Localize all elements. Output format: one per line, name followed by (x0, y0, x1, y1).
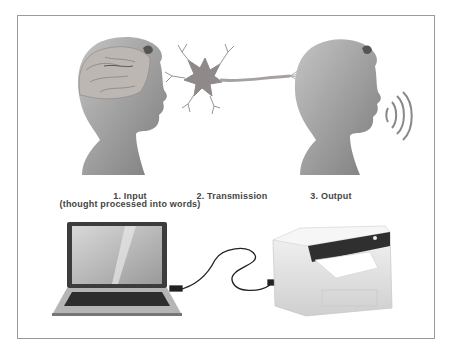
usb-cable-icon (170, 249, 278, 291)
step-2-title: 2. Transmission (182, 192, 282, 201)
step-1-subtitle: (thought processed into words) (40, 200, 220, 209)
diagram-illustration (0, 0, 453, 357)
step-3-title: 3. Output (281, 192, 381, 201)
laptop-icon (52, 222, 182, 316)
neuron-icon (165, 44, 306, 114)
head-speaking-icon (295, 39, 412, 175)
head-with-brain-icon (78, 37, 167, 175)
printer-icon (273, 226, 392, 316)
